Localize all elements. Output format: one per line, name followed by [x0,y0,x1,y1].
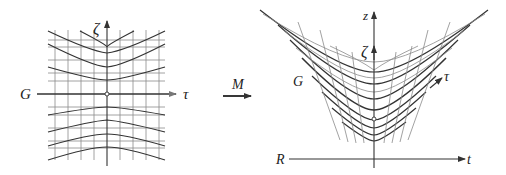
right-z-label: z [362,8,368,23]
right-tau-label: τ [444,69,450,84]
right-origin-marker [372,117,376,121]
left-panel: ζ G τ [20,20,189,166]
right-R-label: R [275,152,285,167]
mapping-M-label: M [231,77,245,92]
left-tau-label: τ [183,86,189,102]
left-G-label: G [20,86,31,102]
diagram-canvas: ζ G τ M [0,0,506,175]
right-zeta-label: ζ [361,43,369,61]
right-panel: z ζ G τ R t [260,8,488,168]
mapping-arrow-group: M [223,77,251,96]
left-zeta-label: ζ [93,20,101,38]
right-G-label: G [293,74,303,89]
right-t-label: t [467,152,472,167]
left-origin-marker [105,92,109,96]
